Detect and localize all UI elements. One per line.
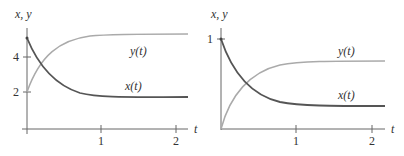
left-label-x: x(t) xyxy=(124,79,142,93)
right-tick-label-x1: 1 xyxy=(293,134,299,148)
left-start-point xyxy=(26,37,29,40)
right-label-x: x(t) xyxy=(337,88,355,102)
right-tick-label-x2: 2 xyxy=(369,134,375,148)
left-tick-label-y4: 4 xyxy=(13,50,19,64)
left-tick-label-x1: 1 xyxy=(98,134,104,148)
left-series-x xyxy=(27,38,188,97)
right-xlabel: t xyxy=(391,122,395,136)
right-start-point xyxy=(220,38,223,41)
left-tick-label-x2: 2 xyxy=(173,134,179,148)
left-xlabel: t xyxy=(194,122,198,136)
right-label-y: y(t) xyxy=(337,44,355,58)
left-ylabel: x, y xyxy=(14,7,32,21)
right-series-y xyxy=(221,61,385,129)
left-tick-label-y2: 2 xyxy=(13,85,19,99)
left-series-y xyxy=(27,34,188,92)
right-ylabel: x, y xyxy=(210,7,228,21)
left-chart: x, y 4 2 1 2 t y(t) x(t) xyxy=(13,7,198,148)
right-series-x xyxy=(221,39,385,106)
left-label-y: y(t) xyxy=(129,44,147,58)
right-tick-label-y1: 1 xyxy=(207,32,213,46)
charts: x, y 4 2 1 2 t y(t) x(t) x, y 1 1 2 t y(… xyxy=(0,0,404,156)
right-chart: x, y 1 1 2 t y(t) x(t) xyxy=(207,7,395,148)
